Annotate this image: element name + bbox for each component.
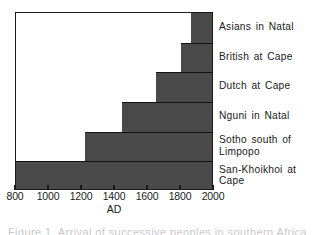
row-label-dutch-at-cape: Dutch at Cape	[219, 80, 290, 92]
chart-figure: 800100012001400160018002000 AD Asians in…	[0, 0, 326, 235]
bar-british-at-cape	[181, 43, 213, 73]
x-axis-title: AD	[0, 203, 228, 215]
row-label-san-khoikhoi-at-cape: San-Khoikhoi at Cape	[219, 164, 296, 187]
bar-nguni-in-natal	[122, 102, 213, 132]
bar-dutch-at-cape	[156, 72, 213, 102]
plot-area	[15, 12, 213, 190]
x-tick-label-1600: 1600	[136, 190, 159, 202]
x-tick-label-1200: 1200	[70, 190, 93, 202]
x-tick-label-2000: 2000	[202, 190, 225, 202]
bar-asians-in-natal	[191, 13, 213, 43]
row-label-nguni-in-natal: Nguni in Natal	[219, 110, 290, 122]
x-tick-label-1400: 1400	[103, 190, 126, 202]
bar-sotho-south-of-limpopo	[85, 132, 213, 162]
row-label-group: Asians in NatalBritish at CapeDutch at C…	[219, 12, 326, 190]
x-tick-label-1000: 1000	[37, 190, 60, 202]
x-tick-label-800: 800	[7, 190, 24, 202]
x-tick-label-1800: 1800	[169, 190, 192, 202]
row-label-asians-in-natal: Asians in Natal	[219, 21, 294, 33]
row-label-british-at-cape: British at Cape	[219, 51, 293, 63]
row-label-sotho-south-of-limpopo: Sotho south of Limpopo	[219, 134, 291, 157]
figure-caption: Figure 1. Arrival of successive peoples …	[8, 226, 318, 235]
